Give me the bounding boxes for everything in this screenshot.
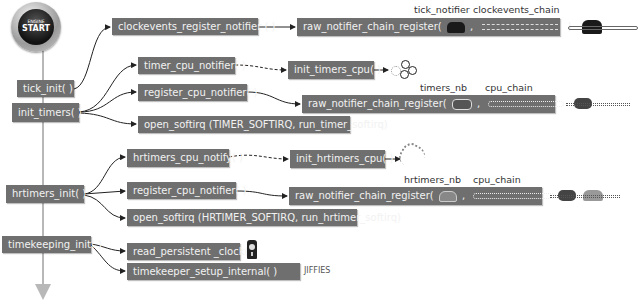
timers-nb-label: timers_nb <box>420 82 467 93</box>
telephone-chain-icon <box>566 99 630 109</box>
timekeeping-init-box: timekeeping_init( ) <box>2 236 91 253</box>
gears-chain-icon <box>400 144 422 168</box>
timer-cpu-notifier-box: timer_cpu_notifier( ) <box>138 57 235 74</box>
tick-init-box: tick_init( ) <box>17 80 74 97</box>
raw-notifier-chain-register-box-1: raw_notifier_chain_register( , ) <box>297 18 560 36</box>
register-call-text: raw_notifier_chain_register( <box>303 21 442 32</box>
jiffies-label: JIFFIES <box>304 266 330 275</box>
chain-icon <box>482 24 558 30</box>
read-persistent-clock-box: read_persistent _clock( ) <box>127 243 240 260</box>
open-softirq-hrtimer-box: open_softirq (HRTIMER_SOFTIRQ, run_hrtim… <box>127 209 357 226</box>
hrtimers-init-box: hrtimers_init( ) <box>6 185 84 203</box>
tick-notifier-label: tick_notifier <box>414 4 470 15</box>
telephone-icon <box>447 22 465 33</box>
open-softirq-timer-box: open_softirq (TIMER_SOFTIRQ, run_timer_s… <box>138 116 350 133</box>
register-call-text: raw_notifier_chain_register( <box>295 190 434 201</box>
init-timers-box: init_timers( ) <box>12 103 79 122</box>
telephone-icon <box>439 191 457 202</box>
chain-icon <box>473 193 555 199</box>
hrtimers-nb-label: hrtimers_nb <box>404 174 461 185</box>
register-cpu-notifier-box-1: register_cpu_notifier( ) <box>138 84 247 101</box>
telephone-chain-icon <box>550 190 620 202</box>
register-cpu-notifier-box-2: register_cpu_notifier( ) <box>127 182 236 199</box>
start-label: START <box>18 24 54 34</box>
clockevents-chain-label: clockevents_chain <box>473 4 560 15</box>
clock-icon <box>247 240 257 259</box>
init-timers-cpu-box: init_timers_cpu( ) <box>288 61 374 79</box>
clockevents-register-notifier-box: clockevents_register_notifier ( ) <box>112 18 258 35</box>
chain-icon <box>488 101 564 107</box>
hrtimers-cpu-notify-box: hrtimers_cpu_notify( ) <box>127 149 229 167</box>
telephone-icon <box>452 99 472 110</box>
cpu-chain-label-2: cpu_chain <box>473 174 521 185</box>
telephone-chain-icon <box>568 22 638 34</box>
cpu-chain-label-1: cpu_chain <box>485 82 533 93</box>
init-hrtimers-cpu-box: init_hrtimers_cpu( ) <box>290 150 385 168</box>
register-call-text: raw_notifier_chain_register( <box>308 98 447 109</box>
engine-start-button: ENGINE START <box>11 2 61 52</box>
gears-icon <box>391 60 417 80</box>
timekeeper-setup-internal-box: timekeeper_setup_internal( ) <box>127 263 300 280</box>
raw-notifier-chain-register-box-3: raw_notifier_chain_register( , ) <box>289 187 542 205</box>
raw-notifier-chain-register-box-2: raw_notifier_chain_register( , ) <box>302 95 555 113</box>
